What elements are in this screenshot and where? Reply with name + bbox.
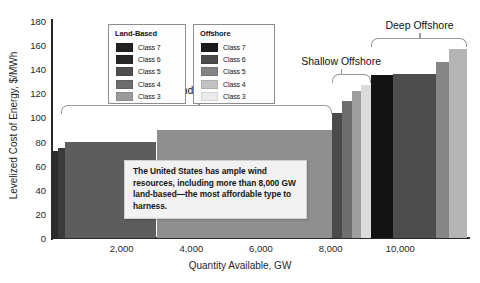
- legend-land-based: Land-Based Class 7 Class 6 Class 5 Class…: [108, 24, 186, 104]
- legend-item-label: Class 6: [223, 56, 246, 63]
- legend-item: Class 4: [114, 78, 180, 90]
- legend-item: Class 6: [199, 53, 269, 65]
- legend-item-label: Class 5: [138, 68, 161, 75]
- legend-item: Class 6: [114, 53, 180, 65]
- x-axis-tick-label: 8,000: [319, 243, 343, 254]
- x-axis-tick-label: 2,000: [110, 243, 134, 254]
- legend-offshore: Offshore Class 7 Class 6 Class 5 Class 4…: [193, 24, 275, 104]
- bar-shallow-offshore-class-4: [361, 85, 370, 238]
- bar-land-based-class-6: [58, 148, 65, 238]
- legend-swatch-icon: [201, 92, 218, 101]
- legend-item-label: Class 5: [223, 68, 246, 75]
- legend-swatch-icon: [201, 55, 218, 64]
- group-label-shallow-offshore: Shallow Offshore: [301, 55, 381, 67]
- legend-item-label: Class 4: [223, 81, 246, 88]
- x-axis-tick-label: 4,000: [179, 243, 203, 254]
- legend-item: Class 4: [199, 78, 269, 90]
- bar-shallow-offshore-class-6: [342, 101, 352, 238]
- legend-swatch-icon: [201, 43, 218, 52]
- legend-land-based-title: Land-Based: [115, 29, 180, 38]
- legend-item: Class 5: [199, 66, 269, 78]
- bar-shallow-offshore-class-5: [352, 91, 361, 238]
- legend-item: Class 7: [114, 41, 180, 53]
- legend-item: Class 3: [199, 91, 269, 103]
- legend-swatch-icon: [201, 67, 218, 76]
- bracket-center-tick: [341, 69, 342, 74]
- group-label-deep-offshore: Deep Offshore: [385, 19, 453, 31]
- legend-item-label: Class 6: [138, 56, 161, 63]
- x-axis-tick-label: 10,000: [386, 243, 415, 254]
- legend-swatch-icon: [201, 80, 218, 89]
- legend-item-label: Class 4: [138, 81, 161, 88]
- legend-swatch-icon: [116, 92, 133, 101]
- legend-item-label: Class 7: [223, 44, 246, 51]
- bar-deep-offshore-class-7: [371, 75, 394, 238]
- legend-offshore-title: Offshore: [200, 29, 269, 38]
- legend-item-label: Class 3: [223, 93, 246, 100]
- legend-swatch-icon: [116, 80, 133, 89]
- bar-deep-offshore-class-6: [393, 74, 436, 238]
- legend-item: Class 5: [114, 66, 180, 78]
- bar-deep-offshore-class-4: [449, 49, 466, 238]
- bar-deep-offshore-class-5: [436, 62, 449, 238]
- wind-supply-curve-figure: Levelized Cost of Energy, $/MWh Quantity…: [0, 0, 480, 283]
- legend-swatch-icon: [116, 43, 133, 52]
- x-axis-tick-label: 6,000: [249, 243, 273, 254]
- bracket-center-tick: [419, 33, 420, 38]
- callout-annotation: The United States has ample wind resourc…: [124, 160, 307, 219]
- callout-text: The United States has ample wind resourc…: [133, 166, 299, 212]
- bar-shallow-offshore-class-7: [332, 113, 342, 238]
- legend-swatch-icon: [116, 55, 133, 64]
- legend-swatch-icon: [116, 67, 133, 76]
- legend-item: Class 7: [199, 41, 269, 53]
- legend-item: Class 3: [114, 91, 180, 103]
- legend-item-label: Class 7: [138, 44, 161, 51]
- legend-item-label: Class 3: [138, 93, 161, 100]
